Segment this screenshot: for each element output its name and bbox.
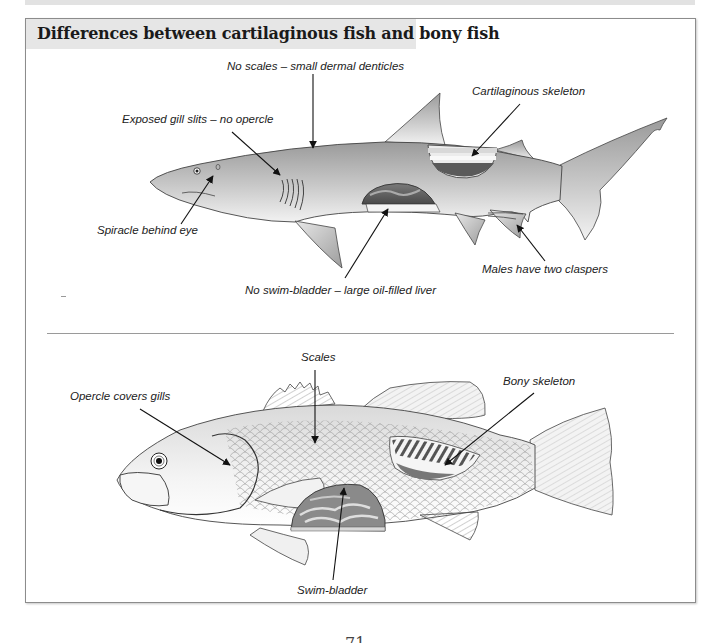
label-no-swim-bladder: No swim-bladder – large oil-filled liver	[245, 284, 436, 296]
arrow-liver	[345, 209, 388, 278]
stray-mark	[61, 296, 66, 297]
fish-illustrations	[0, 0, 720, 643]
bony-fish-illustration	[117, 382, 613, 565]
label-swim-bladder: Swim-bladder	[297, 584, 367, 596]
label-no-scales: No scales – small dermal denticles	[227, 60, 404, 72]
label-cartilaginous-skeleton: Cartilaginous skeleton	[472, 85, 585, 97]
label-claspers: Males have two claspers	[482, 263, 608, 275]
arrow-claspers	[517, 225, 545, 261]
label-exposed-gill-slits: Exposed gill slits – no opercle	[122, 113, 274, 125]
label-opercle: Opercle covers gills	[70, 390, 170, 402]
label-spiracle: Spiracle behind eye	[97, 224, 198, 236]
label-scales: Scales	[301, 351, 336, 363]
label-bony-skeleton: Bony skeleton	[503, 375, 575, 387]
page-number: 71	[345, 636, 365, 643]
